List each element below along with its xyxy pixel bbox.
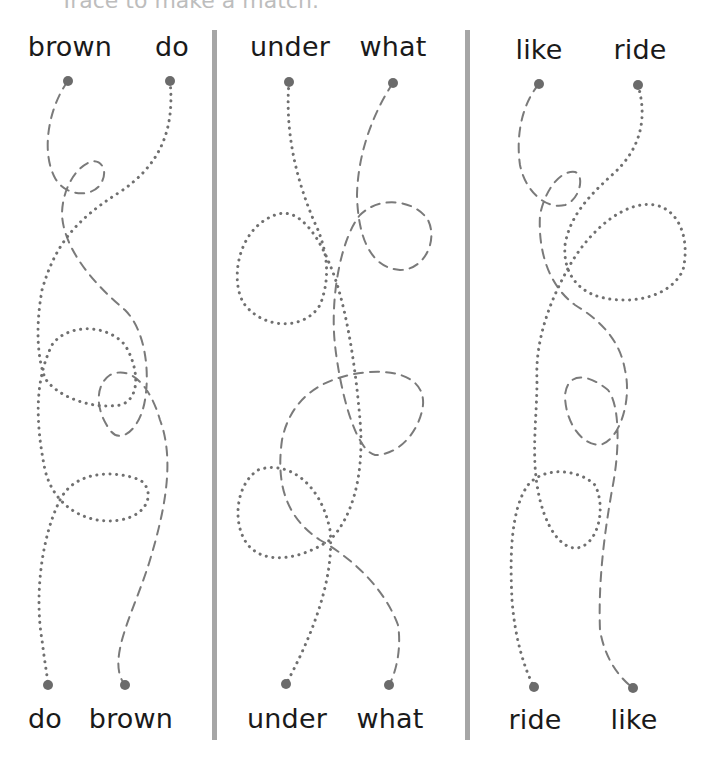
endpoint-top-under[interactable]	[284, 77, 294, 87]
endpoint-bottom-brown[interactable]	[120, 680, 130, 690]
trace-path-brown[interactable]	[48, 81, 168, 685]
endpoint-top-do[interactable]	[165, 76, 175, 86]
endpoint-bottom-under[interactable]	[281, 679, 291, 689]
trace-path-under[interactable]	[237, 82, 361, 684]
endpoint-bottom-ride[interactable]	[529, 682, 539, 692]
endpoint-bottom-like[interactable]	[628, 683, 638, 693]
endpoint-bottom-what[interactable]	[384, 680, 394, 690]
endpoint-bottom-do[interactable]	[43, 680, 53, 690]
endpoint-top-ride[interactable]	[633, 80, 643, 90]
trace-path-ride[interactable]	[511, 85, 685, 687]
endpoint-top-brown[interactable]	[63, 76, 73, 86]
endpoint-top-what[interactable]	[388, 78, 398, 88]
endpoint-top-like[interactable]	[534, 79, 544, 89]
trace-path-like[interactable]	[519, 84, 633, 688]
trace-paths	[0, 0, 724, 776]
